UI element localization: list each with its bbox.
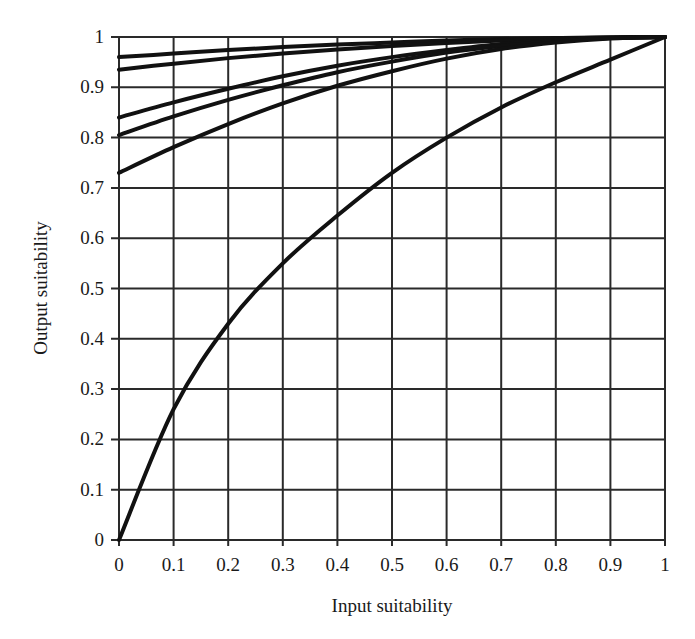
x-tick-label: 0.1	[162, 554, 186, 575]
x-tick-label: 0.5	[380, 554, 404, 575]
x-tick-label: 1	[660, 554, 670, 575]
x-tick-label: 0.7	[489, 554, 513, 575]
y-tick-label: 1	[95, 26, 105, 47]
y-tick-labels: 00.10.20.30.40.50.60.70.80.91	[80, 26, 104, 550]
x-tick-label: 0.8	[544, 554, 568, 575]
x-tick-label: 0.9	[599, 554, 623, 575]
y-tick-label: 0.2	[80, 428, 104, 449]
grid	[111, 37, 665, 546]
x-tick-label: 0.3	[271, 554, 295, 575]
y-tick-label: 0.4	[80, 328, 104, 349]
x-tick-label: 0.2	[216, 554, 240, 575]
y-tick-label: 0.1	[80, 479, 104, 500]
x-tick-label: 0.6	[435, 554, 459, 575]
y-tick-label: 0.5	[80, 278, 104, 299]
y-tick-label: 0.9	[80, 76, 104, 97]
x-tick-label: 0.4	[326, 554, 350, 575]
y-tick-label: 0.8	[80, 127, 104, 148]
y-tick-label: 0	[95, 529, 105, 550]
y-axis-label: Output suitability	[30, 221, 51, 355]
y-tick-label: 0.3	[80, 378, 104, 399]
x-axis-label: Input suitability	[332, 595, 453, 616]
x-tick-labels: 00.10.20.30.40.50.60.70.80.91	[114, 554, 670, 575]
y-tick-label: 0.6	[80, 227, 104, 248]
chart: 00.10.20.30.40.50.60.70.80.91 00.10.20.3…	[0, 0, 695, 639]
x-tick-label: 0	[114, 554, 124, 575]
y-tick-label: 0.7	[80, 177, 104, 198]
